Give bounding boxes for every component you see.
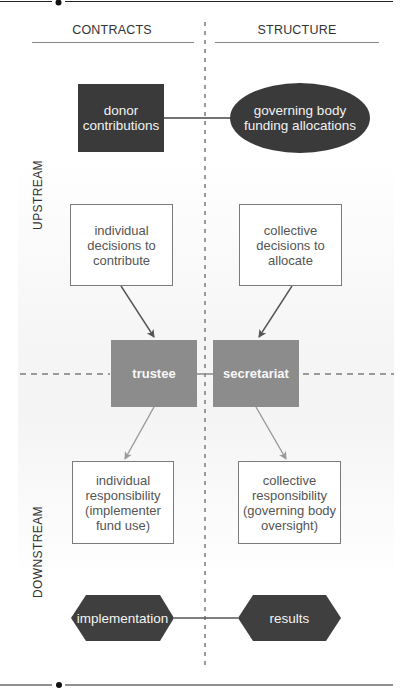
arrow-trustee-to-individual-responsibility [125,407,154,459]
trustee-label: trustee [132,366,175,381]
implementation-node: implementation [71,595,174,641]
individual-responsibility-label: individual responsibility (implementer f… [85,473,161,533]
arrow-secretariat-to-collective-responsibility [256,407,286,459]
governing-body-funding-node: governing body funding allocations [230,83,370,153]
row-label-upstream: UPSTREAM [31,145,45,245]
secretariat-node: secretariat [213,340,299,407]
donor-contributions-node: donor contributions [78,84,164,152]
donor-contributions-label: donor contributions [83,103,160,133]
governing-body-funding-label: governing body funding allocations [244,103,356,133]
implementation-label: implementation [77,611,169,626]
column-header-structure: STRUCTURE [216,23,378,37]
individual-decisions-node: individual decisions to contribute [70,204,173,286]
collective-decisions-node: collective decisions to allocate [239,204,342,286]
row-label-downstream: DOWNSTREAM [31,502,45,602]
collective-responsibility-node: collective responsibility (governing bod… [238,461,341,544]
individual-responsibility-node: individual responsibility (implementer f… [72,461,174,544]
collective-decisions-label: collective decisions to allocate [256,223,325,268]
diagram-canvas: CONTRACTS STRUCTURE UPSTREAM DOWNSTREAM … [0,0,408,691]
column-underline-contracts [32,42,194,43]
secretariat-label: secretariat [223,366,289,381]
arrow-allocate-to-secretariat [259,286,292,337]
trustee-node: trustee [111,340,197,407]
individual-decisions-label: individual decisions to contribute [87,223,156,268]
results-label: results [270,611,310,626]
bottom-rule [0,682,393,688]
column-header-contracts: CONTRACTS [32,23,192,37]
column-underline-structure [215,42,379,43]
top-rule [0,0,393,6]
results-node: results [238,595,341,641]
arrow-contribute-to-trustee [121,286,154,337]
collective-responsibility-label: collective responsibility (governing bod… [243,473,336,533]
